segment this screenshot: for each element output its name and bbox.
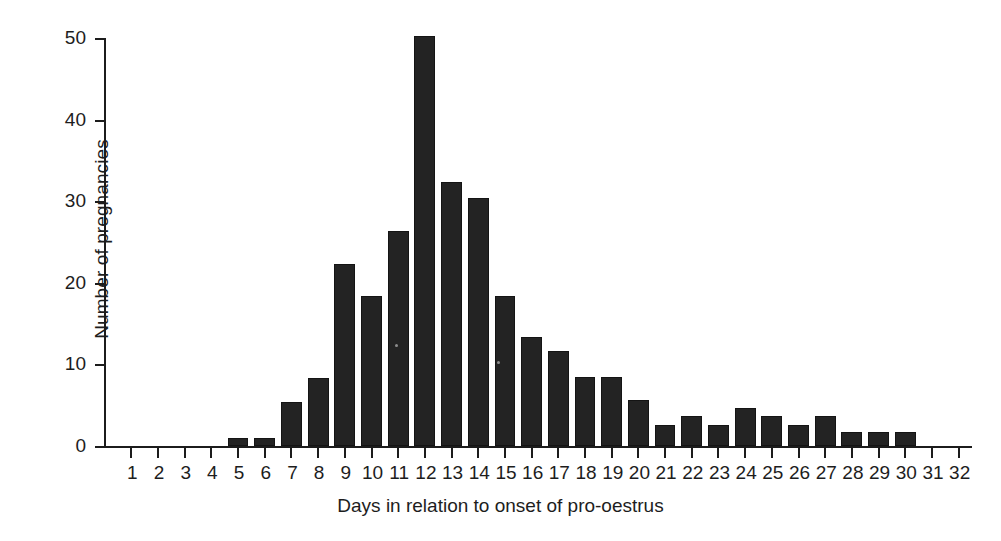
x-axis-tick (157, 448, 159, 458)
x-axis-tick-label: 21 (651, 463, 681, 483)
x-axis-tick-label: 4 (197, 463, 227, 483)
y-axis-tick (95, 364, 104, 366)
y-axis-spine (104, 38, 106, 448)
bar (628, 400, 649, 446)
bar (414, 36, 435, 446)
x-axis-tick (531, 448, 533, 458)
x-axis-tick-label: 28 (838, 463, 868, 483)
x-axis-tick (130, 448, 132, 458)
bar (495, 296, 516, 446)
bar (361, 296, 382, 446)
x-axis-tick (717, 448, 719, 458)
x-axis-tick (904, 448, 906, 458)
x-axis-tick-label: 11 (384, 463, 414, 483)
bar (895, 432, 916, 446)
bar (681, 416, 702, 446)
x-axis-tick (344, 448, 346, 458)
x-axis-tick-label: 32 (945, 463, 975, 483)
x-axis-tick-label: 24 (731, 463, 761, 483)
x-axis-tick (851, 448, 853, 458)
x-axis-tick-label: 29 (865, 463, 895, 483)
bar (308, 378, 329, 446)
x-axis-tick (557, 448, 559, 458)
x-axis-tick (664, 448, 666, 458)
y-axis-tick (95, 38, 104, 40)
x-axis-tick-label: 17 (544, 463, 574, 483)
y-axis-tick-label: 0 (42, 436, 86, 455)
x-axis-tick (824, 448, 826, 458)
bar (388, 231, 409, 446)
bar (761, 416, 782, 446)
plot-area: 1234567891011121314151617181920212223242… (104, 36, 972, 448)
bar (735, 408, 756, 446)
y-axis-tick-label: 50 (42, 28, 86, 47)
x-axis-tick-label: 25 (758, 463, 788, 483)
y-axis-tick-label: 20 (42, 273, 86, 292)
x-axis-tick (958, 448, 960, 458)
y-axis-tick-label: 30 (42, 191, 86, 210)
bar (441, 182, 462, 446)
y-axis-tick-label: 10 (42, 354, 86, 373)
bar (281, 402, 302, 446)
bar (841, 432, 862, 446)
x-axis-tick (691, 448, 693, 458)
x-axis-tick (878, 448, 880, 458)
x-axis-tick (798, 448, 800, 458)
x-axis-tick (504, 448, 506, 458)
x-axis-tick-label: 15 (491, 463, 521, 483)
bar (521, 337, 542, 446)
x-axis-tick-label: 16 (518, 463, 548, 483)
x-axis-tick-label: 7 (277, 463, 307, 483)
x-axis-tick-label: 23 (704, 463, 734, 483)
x-axis-tick (744, 448, 746, 458)
x-axis-tick (264, 448, 266, 458)
x-axis-tick (477, 448, 479, 458)
bar (788, 425, 809, 446)
x-axis-spine (104, 446, 972, 448)
x-axis-tick (611, 448, 613, 458)
x-axis-tick-label: 20 (624, 463, 654, 483)
x-axis-tick (371, 448, 373, 458)
x-axis-tick-label: 27 (811, 463, 841, 483)
x-axis-tick-label: 8 (304, 463, 334, 483)
x-axis-tick-label: 5 (224, 463, 254, 483)
x-axis-tick (210, 448, 212, 458)
x-axis-tick (584, 448, 586, 458)
x-axis-tick (184, 448, 186, 458)
x-axis-tick-label: 22 (678, 463, 708, 483)
bar (601, 377, 622, 446)
bar (655, 425, 676, 446)
x-axis-tick-label: 14 (464, 463, 494, 483)
x-axis-tick-label: 13 (438, 463, 468, 483)
x-axis-tick-label: 1 (117, 463, 147, 483)
x-axis-tick (931, 448, 933, 458)
x-axis-tick (397, 448, 399, 458)
y-axis-tick (95, 446, 104, 448)
x-axis-tick-label: 2 (144, 463, 174, 483)
bar (868, 432, 889, 446)
bar (254, 438, 275, 446)
x-axis-tick (637, 448, 639, 458)
x-axis-tick-label: 10 (358, 463, 388, 483)
x-axis-tick-label: 6 (251, 463, 281, 483)
x-axis-tick-label: 18 (571, 463, 601, 483)
x-axis-tick (451, 448, 453, 458)
bar (575, 377, 596, 446)
scan-speck (497, 361, 500, 364)
x-axis-tick-label: 9 (331, 463, 361, 483)
bar (708, 425, 729, 446)
x-axis-tick (424, 448, 426, 458)
bar (468, 198, 489, 446)
x-axis-tick-label: 31 (918, 463, 948, 483)
x-axis-tick (771, 448, 773, 458)
y-axis-tick (95, 283, 104, 285)
x-axis-tick-label: 12 (411, 463, 441, 483)
bar (548, 351, 569, 446)
x-axis-title: Days in relation to onset of pro-oestrus (0, 495, 1001, 517)
y-axis-tick-label: 40 (42, 110, 86, 129)
x-axis-tick-label: 30 (891, 463, 921, 483)
bar-chart-figure: Number of pregnancies 123456789101112131… (0, 0, 1001, 541)
x-axis-tick (237, 448, 239, 458)
bar (228, 438, 249, 446)
y-axis-tick (95, 120, 104, 122)
